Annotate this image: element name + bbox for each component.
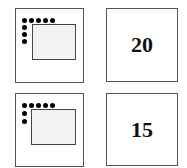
- value-box-2: 15: [106, 93, 178, 166]
- dot-icon: [22, 25, 27, 30]
- dot-icon: [36, 18, 41, 23]
- dot-icon: [43, 18, 48, 23]
- dot-icon: [22, 111, 27, 116]
- value-box-1: 20: [106, 8, 178, 82]
- dot-icon: [50, 103, 55, 108]
- dot-icon: [29, 18, 34, 23]
- shaded-rectangle: [32, 24, 76, 60]
- dot-icon: [22, 39, 27, 44]
- dot-icon: [22, 18, 27, 23]
- pattern-box-2: [15, 93, 84, 167]
- dot-icon: [43, 103, 48, 108]
- dot-icon: [22, 32, 27, 37]
- dot-icon: [50, 18, 55, 23]
- dot-icon: [22, 119, 27, 124]
- value-label: 15: [107, 117, 177, 143]
- dot-icon: [22, 103, 27, 108]
- value-label: 20: [107, 32, 177, 58]
- shaded-rectangle: [31, 109, 76, 145]
- dot-icon: [36, 103, 41, 108]
- dot-icon: [29, 103, 34, 108]
- pattern-box-1: [15, 8, 84, 83]
